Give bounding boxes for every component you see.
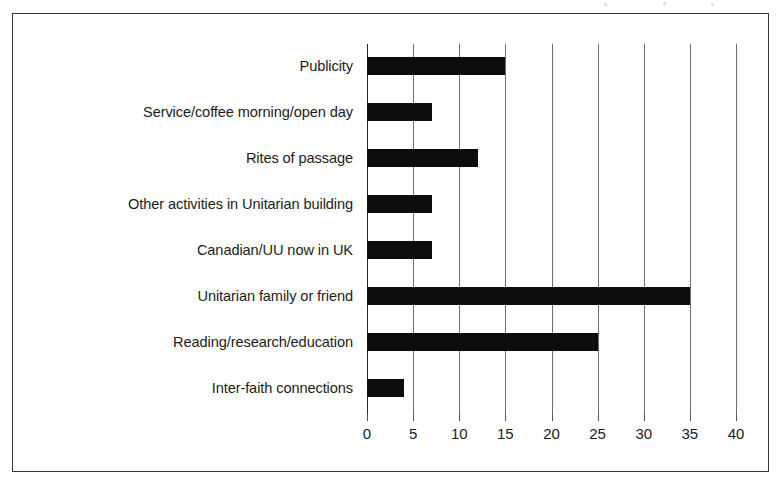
gridline-5 xyxy=(413,44,414,414)
gridline-0 xyxy=(367,44,368,414)
bar xyxy=(367,57,505,75)
bar xyxy=(367,149,478,167)
bar xyxy=(367,103,432,121)
category-label: Other activities in Unitarian building xyxy=(13,195,353,213)
scan-artifacts xyxy=(0,0,783,12)
x-tick-0 xyxy=(367,414,368,421)
gridline-10 xyxy=(459,44,460,414)
x-tick-20 xyxy=(552,414,553,421)
x-tick-15 xyxy=(505,414,506,421)
category-label: Rites of passage xyxy=(13,149,353,167)
gridline-20 xyxy=(552,44,553,414)
x-tick-30 xyxy=(644,414,645,421)
bar xyxy=(367,333,598,351)
x-tick-35 xyxy=(690,414,691,421)
x-tick-label: 30 xyxy=(624,425,664,442)
category-label: Reading/research/education xyxy=(13,333,353,351)
category-label: Unitarian family or friend xyxy=(13,287,353,305)
bar xyxy=(367,195,432,213)
category-label: Service/coffee morning/open day xyxy=(13,103,353,121)
x-tick-5 xyxy=(413,414,414,421)
x-tick-label: 10 xyxy=(439,425,479,442)
gridline-25 xyxy=(598,44,599,414)
x-tick-10 xyxy=(459,414,460,421)
x-tick-label: 40 xyxy=(716,425,756,442)
x-tick-label: 20 xyxy=(532,425,572,442)
value-axis: 0510152025303540 xyxy=(367,414,736,454)
gridline-35 xyxy=(690,44,691,414)
x-tick-label: 25 xyxy=(578,425,618,442)
bar xyxy=(367,287,690,305)
chart-frame: PublicityService/coffee morning/open day… xyxy=(12,13,769,472)
category-label: Canadian/UU now in UK xyxy=(13,241,353,259)
x-tick-label: 35 xyxy=(670,425,710,442)
category-label: Publicity xyxy=(13,57,353,75)
plot-area xyxy=(367,44,736,414)
category-axis: PublicityService/coffee morning/open day… xyxy=(13,44,361,414)
bar xyxy=(367,379,404,397)
x-tick-label: 15 xyxy=(485,425,525,442)
gridline-30 xyxy=(644,44,645,414)
category-label: Inter-faith connections xyxy=(13,379,353,397)
bar-chart: PublicityService/coffee morning/open day… xyxy=(13,14,770,473)
gridline-15 xyxy=(505,44,506,414)
x-tick-40 xyxy=(736,414,737,421)
gridline-40 xyxy=(736,44,737,414)
bar xyxy=(367,241,432,259)
x-tick-label: 0 xyxy=(347,425,387,442)
x-tick-25 xyxy=(598,414,599,421)
x-tick-label: 5 xyxy=(393,425,433,442)
